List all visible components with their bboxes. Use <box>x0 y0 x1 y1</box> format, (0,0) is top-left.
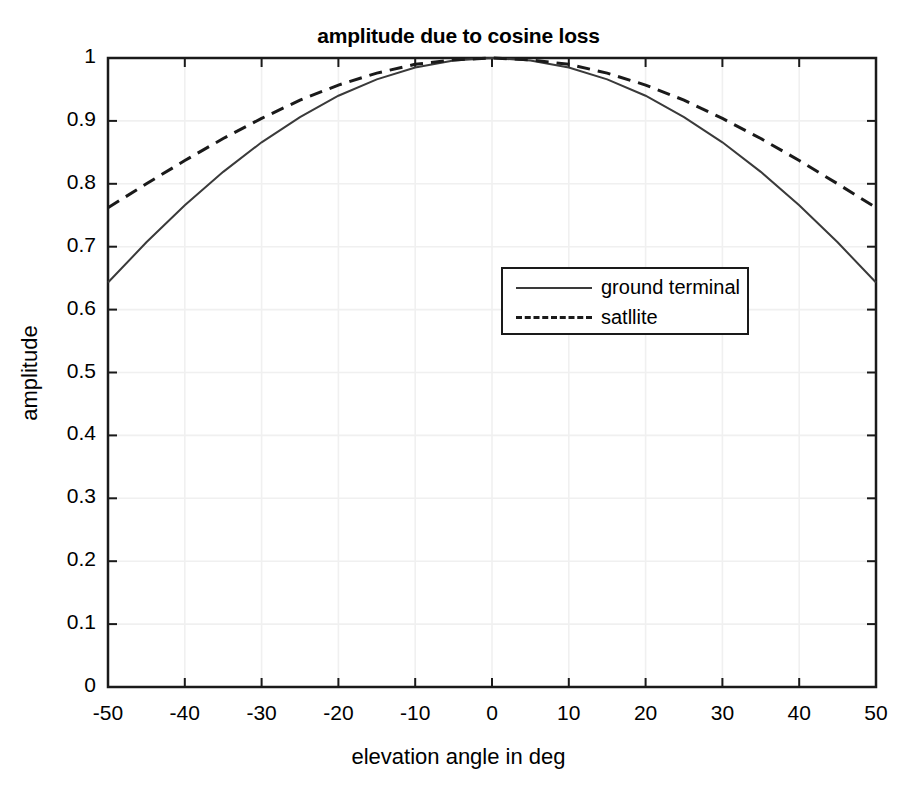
y-tick-label: 0.8 <box>16 170 96 194</box>
legend-item-satllite: satllite <box>503 303 747 333</box>
legend-item-ground-terminal: ground terminal <box>503 273 747 303</box>
legend-line-sample-solid-icon <box>516 287 592 289</box>
legend-item-label: ground terminal <box>601 276 740 299</box>
y-tick-label: 0 <box>16 673 96 697</box>
y-tick-label: 1 <box>16 44 96 68</box>
x-tick-label: 50 <box>836 701 916 725</box>
y-tick-label: 0.3 <box>16 484 96 508</box>
y-tick-label: 0.1 <box>16 610 96 634</box>
legend-item-label: satllite <box>601 306 658 329</box>
y-tick-label: 0.2 <box>16 547 96 571</box>
gridlines <box>108 58 876 687</box>
x-tick-label: 0 <box>452 701 532 725</box>
y-axis-label: amplitude <box>17 313 43 433</box>
x-tick-label: -50 <box>68 701 148 725</box>
legend-line-sample-dashed-icon <box>516 316 592 319</box>
x-tick-label: -10 <box>375 701 455 725</box>
plot-canvas <box>0 0 917 791</box>
x-tick-label: 30 <box>682 701 762 725</box>
x-axis-label: elevation angle in deg <box>0 744 917 770</box>
chart-page: amplitude due to cosine loss -50-40-30-2… <box>0 0 917 791</box>
x-tick-label: 40 <box>759 701 839 725</box>
x-tick-label: -40 <box>145 701 225 725</box>
x-tick-label: 10 <box>529 701 609 725</box>
y-tick-label: 0.9 <box>16 107 96 131</box>
x-tick-label: -30 <box>222 701 302 725</box>
x-tick-label: 20 <box>606 701 686 725</box>
x-tick-label: -20 <box>298 701 378 725</box>
y-tick-label: 0.7 <box>16 233 96 257</box>
legend: ground terminal satllite <box>501 267 749 335</box>
